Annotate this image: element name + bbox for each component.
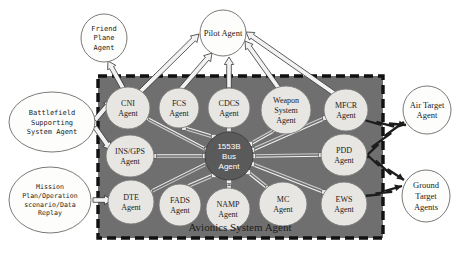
container-title-layer: Avionics System Agent <box>188 221 291 233</box>
mc-agent[interactable]: MCAgent <box>259 182 307 226</box>
1553b-bus-agent-label-1: Bus <box>222 152 236 161</box>
ground-target-agents-label-2: Agents <box>414 202 438 212</box>
fads-agent-label-1: Agent <box>170 206 190 215</box>
avionics-system-agent-title: Avionics System Agent <box>188 221 291 233</box>
ins-gps-agent[interactable]: INS/GPSAgent <box>106 135 154 177</box>
ews-agent-label-1: Agent <box>334 205 354 214</box>
dte-agent[interactable]: DTEAgent <box>108 180 154 224</box>
1553b-bus-agent[interactable]: 1553BBusAgent <box>205 132 253 180</box>
ground-target-agents-label-0: Ground <box>413 180 440 190</box>
cdcs-agent-label-0: CDCS <box>219 99 240 108</box>
friend-plane-agent-label-0: Friend <box>91 25 116 33</box>
ews-agent[interactable]: EWSAgent <box>321 182 367 226</box>
mission-plan-operation-scenario-data-replay-label-2: scenario/Data <box>24 201 76 209</box>
weapon-system-agent[interactable]: WeaponSystemAgent <box>261 86 311 134</box>
weapon-system-agent-label-1: System <box>274 106 298 115</box>
fads-agent[interactable]: FADSAgent <box>159 184 201 226</box>
fcs-agent-label-0: FCS <box>172 99 186 108</box>
dte-agent-label-1: Agent <box>121 203 141 212</box>
fcs-agent[interactable]: FCSAgent <box>159 88 199 128</box>
friend-plane-agent[interactable]: FriendPlaneAgent <box>81 14 127 62</box>
diagram-canvas: CNIAgentFCSAgentCDCSAgentWeaponSystemAge… <box>0 0 465 265</box>
mission-plan-operation-scenario-data-replay[interactable]: MissionPlan/Operationscenario/DataReplay <box>9 167 91 233</box>
mfcr-agent[interactable]: MFCRAgent <box>324 89 368 131</box>
pilot-agent[interactable]: Pilot Agent <box>200 10 246 56</box>
mission-plan-operation-scenario-data-replay-label-3: Replay <box>38 209 62 217</box>
1553b-bus-agent-label-0: 1553B <box>217 142 240 151</box>
namp-agent-label-1: Agent <box>218 210 238 219</box>
battlefield-supporting-system-agent-label-0: Battlefield <box>29 109 75 117</box>
cdcs-agent[interactable]: CDCSAgent <box>208 88 250 128</box>
namp-agent-label-0: NAMP <box>216 200 240 209</box>
cdcs-agent-label-1: Agent <box>219 109 239 118</box>
pilot-agent-label-0: Pilot Agent <box>204 28 243 38</box>
pdd-agent-label-1: Agent <box>334 156 354 165</box>
air-target-agent-label-1: Agent <box>417 110 438 120</box>
pdd-agent[interactable]: PDDAgent <box>321 134 367 176</box>
mission-plan-operation-scenario-data-replay-label-0: Mission <box>36 183 64 191</box>
cni-agent-label-1: Agent <box>118 109 138 118</box>
ins-gps-agent-label-0: INS/GPS <box>115 147 145 156</box>
avionics-multi-agent-diagram: CNIAgentFCSAgentCDCSAgentWeaponSystemAge… <box>0 0 465 265</box>
ins-gps-agent-label-1: Agent <box>120 157 140 166</box>
weapon-system-agent-label-2: Agent <box>276 116 296 125</box>
ews-agent-label-0: EWS <box>336 195 353 204</box>
fcs-agent-label-1: Agent <box>169 109 189 118</box>
fads-agent-label-0: FADS <box>170 196 190 205</box>
friend-plane-agent-label-1: Plane <box>93 34 114 42</box>
air-target-agent[interactable]: Air TargetAgent <box>403 86 451 134</box>
air-target-agent-label-0: Air Target <box>410 100 445 110</box>
cni-agent[interactable]: CNIAgent <box>106 87 150 129</box>
battlefield-supporting-system-agent-label-2: System Agent <box>27 128 78 136</box>
cni-agent-label-0: CNI <box>121 99 135 108</box>
battlefield-supporting-system-agent-label-1: Supporting <box>31 119 73 127</box>
mfcr-agent-label-1: Agent <box>336 111 356 120</box>
mission-plan-operation-scenario-data-replay-label-1: Plan/Operation <box>22 192 78 200</box>
mfcr-agent-label-0: MFCR <box>335 101 358 110</box>
dte-agent-label-0: DTE <box>123 193 139 202</box>
1553b-bus-agent-label-2: Agent <box>219 162 241 171</box>
ground-target-agents[interactable]: GroundTargetAgents <box>402 170 450 222</box>
mc-agent-label-0: MC <box>277 195 289 204</box>
pdd-agent-label-0: PDD <box>336 146 352 155</box>
weapon-system-agent-label-0: Weapon <box>273 96 299 105</box>
mc-agent-label-1: Agent <box>273 205 293 214</box>
battlefield-supporting-system-agent[interactable]: BattlefieldSupportingSystem Agent <box>9 92 95 152</box>
friend-plane-agent-label-2: Agent <box>93 44 114 52</box>
ground-target-agents-label-1: Target <box>415 191 437 201</box>
